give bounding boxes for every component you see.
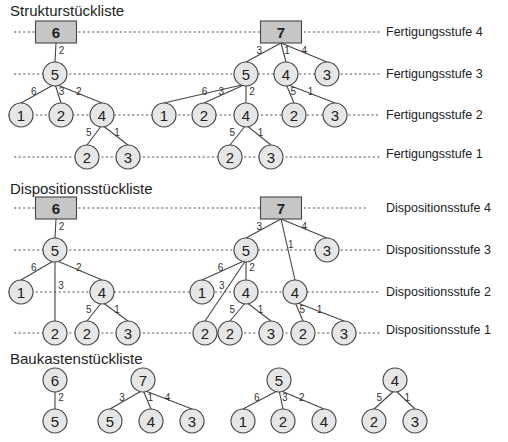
part-node: 1 (231, 409, 255, 433)
quantity-label: 4 (165, 392, 171, 403)
quantity-label: 4 (302, 45, 308, 56)
part-node: 2 (282, 103, 306, 127)
quantity-label: 6 (218, 262, 224, 273)
part-node: 3 (332, 321, 356, 345)
quantity-label: 5 (86, 127, 92, 138)
quantity-label: 1 (114, 304, 120, 315)
node-label: 2 (83, 149, 91, 166)
quantity-label: 5 (376, 392, 382, 403)
node-label: 3 (323, 242, 331, 259)
edge (110, 390, 143, 409)
quantity-label: 6 (31, 262, 37, 273)
edge (243, 390, 279, 409)
part-node: 3 (315, 238, 339, 262)
node-label: 2 (226, 325, 234, 342)
product-box: 6 (36, 197, 77, 219)
node-label: 6 (52, 24, 60, 41)
node-label: 2 (83, 325, 91, 342)
quantity-label: 1 (317, 304, 323, 315)
part-node: 1 (152, 103, 176, 127)
part-node: 1 (9, 280, 33, 304)
quantity-label: 1 (258, 127, 264, 138)
part-node: 5 (43, 409, 67, 433)
node-label: 3 (188, 413, 196, 430)
quantity-label: 5 (229, 304, 235, 315)
part-node: 4 (383, 368, 407, 392)
part-node: 5 (234, 238, 258, 262)
node-label: 1 (198, 284, 206, 301)
edge (55, 219, 56, 238)
node-label: 3 (323, 66, 331, 83)
quantity-label: 3 (219, 280, 225, 291)
node-label: 4 (147, 413, 155, 430)
quantity-label: 2 (76, 262, 82, 273)
node-label: 2 (51, 325, 59, 342)
quantity-label: 2 (59, 45, 65, 56)
quantity-label: 3 (59, 86, 65, 97)
quantity-label: 5 (291, 86, 297, 97)
part-node: 2 (192, 103, 216, 127)
node-label: 5 (51, 413, 59, 430)
node-label: 2 (226, 149, 234, 166)
edge (204, 84, 246, 103)
node-label: 4 (242, 107, 250, 124)
node-label: 3 (340, 325, 348, 342)
node-label: 7 (277, 200, 285, 217)
node-label: 5 (106, 413, 114, 430)
part-node: 4 (139, 409, 163, 433)
part-node: 3 (259, 145, 283, 169)
node-label: 1 (17, 107, 25, 124)
part-node: 5 (267, 368, 291, 392)
quantity-label: 4 (302, 221, 308, 232)
quantity-label: 2 (249, 262, 255, 273)
quantity-label: 1 (284, 45, 290, 56)
part-node: 6 (43, 368, 67, 392)
node-label: 4 (320, 413, 328, 430)
part-node: 4 (274, 62, 298, 86)
quantity-label: 3 (257, 45, 263, 56)
node-label: 2 (290, 107, 298, 124)
part-node: 4 (90, 103, 114, 127)
node-label: 1 (17, 284, 25, 301)
edge (55, 43, 56, 62)
edge (21, 260, 55, 280)
node-label: 7 (139, 372, 147, 389)
quantity-label: 1 (258, 304, 264, 315)
quantity-label: 2 (76, 86, 82, 97)
quantity-label: 1 (308, 86, 314, 97)
part-node: 4 (234, 280, 258, 304)
part-node: 3 (403, 409, 427, 433)
product-box: 7 (261, 21, 302, 43)
edges (21, 43, 415, 409)
quantity-label: 3 (257, 221, 263, 232)
quantity-label: 1 (405, 392, 411, 403)
part-node: 2 (291, 321, 315, 345)
node-label: 3 (124, 149, 132, 166)
edge (246, 219, 281, 238)
part-node: 2 (271, 409, 295, 433)
part-node: 3 (116, 145, 140, 169)
part-node: 4 (90, 280, 114, 304)
part-node: 2 (49, 103, 73, 127)
edge (246, 43, 281, 62)
node-label: 2 (201, 325, 209, 342)
node-label: 5 (242, 66, 250, 83)
node-label: 3 (331, 107, 339, 124)
edge (21, 84, 55, 103)
node-label: 6 (52, 200, 60, 217)
part-node: 4 (234, 103, 258, 127)
part-node: 2 (218, 321, 242, 345)
quantity-label: 6 (254, 392, 260, 403)
part-node: 5 (43, 238, 67, 262)
node-label: 3 (267, 325, 275, 342)
quantity-label: 3 (219, 86, 225, 97)
node-label: 4 (242, 284, 250, 301)
product-box: 7 (261, 197, 302, 219)
node-label: 1 (239, 413, 247, 430)
part-node: 2 (218, 145, 242, 169)
part-node: 3 (259, 321, 283, 345)
quantity-label: 2 (58, 392, 64, 403)
part-node: 1 (9, 103, 33, 127)
quantity-label: 2 (299, 392, 305, 403)
part-node: 5 (98, 409, 122, 433)
